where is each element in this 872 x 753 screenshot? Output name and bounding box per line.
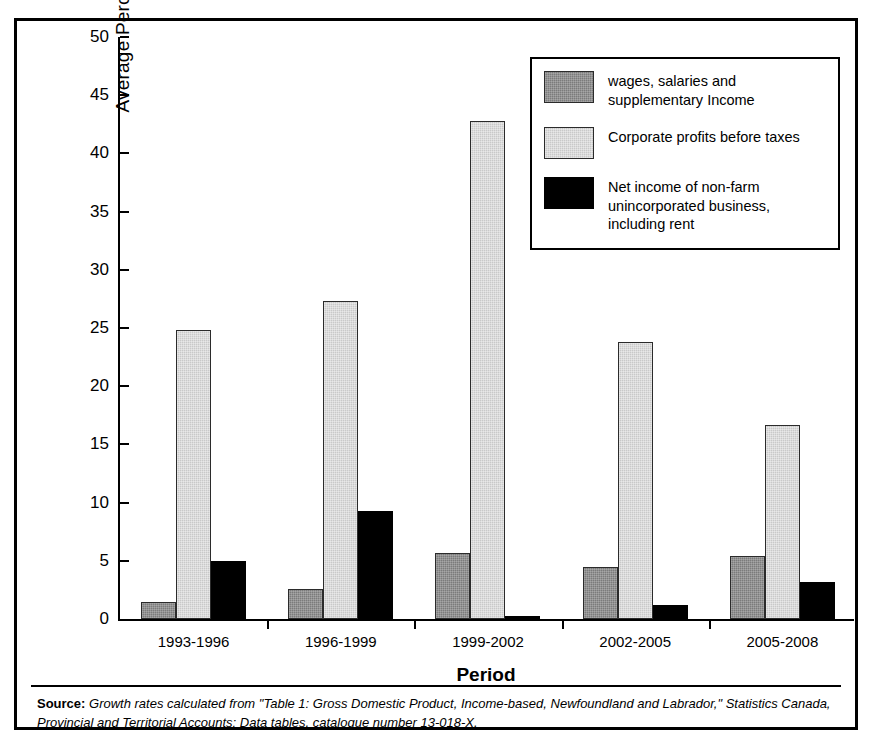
x-tick-label: 1999-2002 [452, 633, 524, 650]
y-tick-label: 10 [74, 493, 120, 513]
bar-series-1 [176, 330, 211, 619]
bar-series-1 [618, 342, 653, 619]
y-tick-label: 50 [74, 27, 120, 47]
x-tick-label: 2005-2008 [747, 633, 819, 650]
chart-legend: wages, salaries and supplementary Income… [530, 57, 840, 250]
bar-series-0 [288, 589, 323, 619]
x-tick-mark [414, 619, 416, 629]
figure-frame: Average Percentage Growth Rate 051015202… [14, 18, 858, 730]
y-tick-label: 35 [74, 202, 120, 222]
y-tick-label: 30 [74, 260, 120, 280]
bar-series-2 [653, 605, 688, 619]
bar-series-1 [323, 301, 358, 619]
bar-series-2 [358, 511, 393, 619]
x-tick-label: 1993-1996 [158, 633, 230, 650]
bar-series-2 [211, 561, 246, 619]
y-tick-label: 25 [74, 318, 120, 338]
legend-item-label: wages, salaries and supplementary Income [608, 71, 828, 109]
x-axis-title: Period [118, 664, 854, 686]
legend-item: wages, salaries and supplementary Income [544, 71, 828, 109]
bar-series-0 [141, 602, 176, 619]
x-tick-mark [709, 619, 711, 629]
light-grey-swatch [544, 127, 594, 159]
x-tick-mark [562, 619, 564, 629]
bar-series-2 [505, 616, 540, 619]
bar-series-1 [765, 425, 800, 619]
y-tick-label: 45 [74, 85, 120, 105]
legend-item: Corporate profits before taxes [544, 127, 828, 159]
source-label: Source: [37, 696, 85, 711]
y-tick-label: 40 [74, 143, 120, 163]
source-note: Source: Growth rates calculated from "Ta… [37, 695, 837, 733]
black-swatch [544, 177, 594, 209]
y-tick-label: 15 [74, 434, 120, 454]
x-tick-mark [267, 619, 269, 629]
legend-item: Net income of non-farm unincorporated bu… [544, 177, 828, 234]
x-tick-label: 1996-1999 [305, 633, 377, 650]
x-tick-label: 2002-2005 [599, 633, 671, 650]
bar-series-2 [800, 582, 835, 619]
y-tick-label: 5 [74, 551, 120, 571]
source-text: Growth rates calculated from "Table 1: G… [37, 696, 830, 730]
bar-series-0 [583, 567, 618, 619]
bar-series-0 [435, 553, 470, 619]
dark-grey-swatch [544, 71, 594, 103]
bar-group [267, 37, 414, 619]
y-tick-label: 20 [74, 376, 120, 396]
bar-group [120, 37, 267, 619]
y-tick-label: 0 [74, 609, 120, 629]
bar-series-1 [470, 121, 505, 619]
source-divider [31, 685, 841, 687]
bar-series-0 [730, 556, 765, 619]
legend-item-label: Net income of non-farm unincorporated bu… [608, 177, 828, 234]
legend-item-label: Corporate profits before taxes [608, 127, 800, 147]
